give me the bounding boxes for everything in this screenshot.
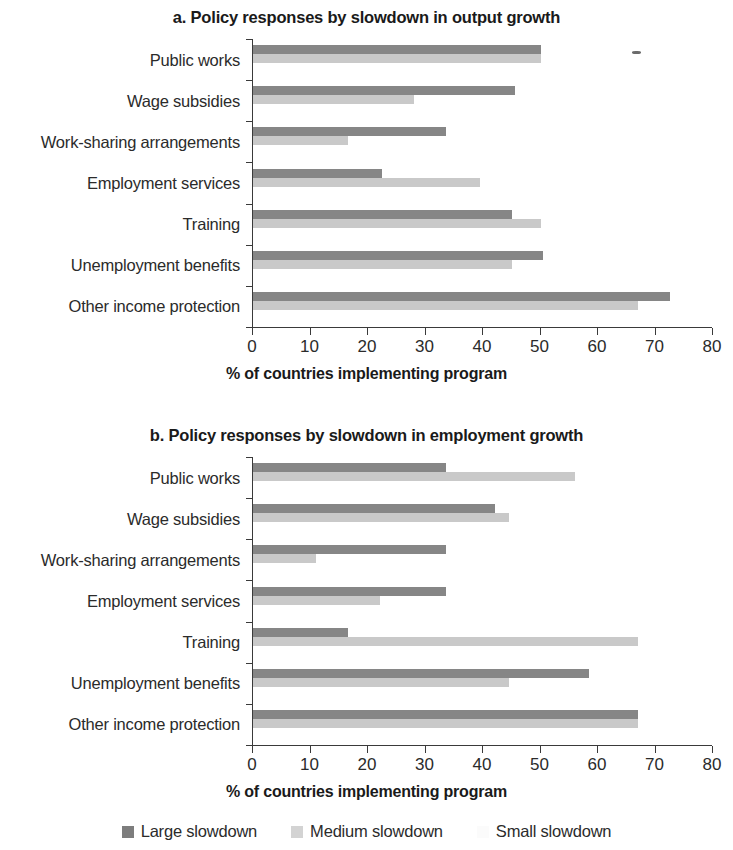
bar-a-1-large bbox=[253, 86, 515, 95]
chart-a-category-labels: Public worksWage subsidiesWork-sharing a… bbox=[0, 39, 246, 327]
category-label-a-1: Wage subsidies bbox=[127, 91, 240, 110]
bar-a-4-large bbox=[253, 210, 512, 219]
y-axis-tick bbox=[246, 498, 253, 499]
bar-a-5-large bbox=[253, 251, 543, 260]
x-axis-tick bbox=[540, 328, 541, 335]
y-axis-tick bbox=[246, 121, 253, 122]
y-axis-tick bbox=[246, 162, 253, 163]
x-axis-tick bbox=[655, 328, 656, 335]
x-axis-tick-label: 20 bbox=[358, 755, 377, 775]
y-axis-tick bbox=[246, 539, 253, 540]
bar-a-4-medium bbox=[253, 219, 541, 228]
y-axis-tick bbox=[246, 457, 253, 458]
x-axis-tick-label: 10 bbox=[300, 337, 319, 357]
x-axis-tick-label: 70 bbox=[645, 337, 664, 357]
bar-a-0-large bbox=[253, 45, 541, 54]
category-label-b-1: Wage subsidies bbox=[127, 509, 240, 528]
x-axis-tick bbox=[310, 328, 311, 335]
legend-item-small: Small slowdown bbox=[477, 822, 612, 841]
bar-a-1-medium bbox=[253, 95, 414, 104]
category-label-b-6: Other income protection bbox=[69, 715, 241, 734]
chart-b-category-labels: Public worksWage subsidiesWork-sharing a… bbox=[0, 457, 246, 745]
bar-a-2-medium bbox=[253, 136, 348, 145]
figure-page: a. Policy responses by slowdown in outpu… bbox=[0, 0, 733, 850]
chart-b-title: b. Policy responses by slowdown in emplo… bbox=[0, 420, 733, 445]
bar-b-1-medium bbox=[253, 513, 509, 522]
y-axis-tick bbox=[246, 39, 253, 40]
x-axis-tick bbox=[482, 328, 483, 335]
bar-a-6-medium bbox=[253, 301, 638, 310]
bar-b-4-large bbox=[253, 628, 348, 637]
y-axis-tick bbox=[246, 204, 253, 205]
bar-b-4-medium bbox=[253, 637, 638, 646]
category-label-a-6: Other income protection bbox=[69, 297, 241, 316]
x-axis-tick-label: 60 bbox=[588, 755, 607, 775]
legend-label: Medium slowdown bbox=[310, 822, 443, 841]
legend-item-large: Large slowdown bbox=[122, 822, 257, 841]
chart-b-x-axis-title: % of countries implementing program bbox=[0, 783, 733, 801]
chart-panel-b: b. Policy responses by slowdown in emplo… bbox=[0, 420, 733, 790]
category-label-b-4: Training bbox=[183, 633, 240, 652]
x-axis-tick bbox=[597, 328, 598, 335]
chart-a-x-axis-title: % of countries implementing program bbox=[0, 365, 733, 383]
bar-a-3-large bbox=[253, 169, 382, 178]
x-axis-tick-label: 10 bbox=[300, 755, 319, 775]
y-axis-tick bbox=[246, 286, 253, 287]
category-label-b-5: Unemployment benefits bbox=[71, 674, 240, 693]
category-label-b-3: Employment services bbox=[87, 592, 240, 611]
x-axis-tick-label: 80 bbox=[703, 755, 722, 775]
bar-b-0-large bbox=[253, 463, 446, 472]
x-axis-tick bbox=[252, 328, 253, 335]
bar-b-2-medium bbox=[253, 554, 316, 563]
bar-a-2-large bbox=[253, 127, 446, 136]
x-axis-tick bbox=[655, 746, 656, 753]
x-axis-tick bbox=[712, 746, 713, 753]
chart-panel-a: a. Policy responses by slowdown in outpu… bbox=[0, 0, 733, 400]
x-axis-tick-label: 40 bbox=[473, 755, 492, 775]
bar-b-6-medium bbox=[253, 719, 638, 728]
x-axis-tick-label: 80 bbox=[703, 337, 722, 357]
x-axis-tick bbox=[252, 746, 253, 753]
y-axis-tick bbox=[246, 580, 253, 581]
x-axis-tick-label: 40 bbox=[473, 337, 492, 357]
x-axis-tick-label: 50 bbox=[530, 337, 549, 357]
bar-a-0-medium bbox=[253, 54, 541, 63]
bar-b-2-large bbox=[253, 545, 446, 554]
x-axis-tick bbox=[425, 746, 426, 753]
bar-b-3-large bbox=[253, 587, 446, 596]
x-axis-tick bbox=[712, 328, 713, 335]
category-label-a-3: Employment services bbox=[87, 174, 240, 193]
x-axis-tick bbox=[597, 746, 598, 753]
chart-b-plot-area bbox=[252, 457, 713, 745]
bar-a-6-large bbox=[253, 292, 670, 301]
category-label-a-4: Training bbox=[183, 215, 240, 234]
x-axis-tick-label: 50 bbox=[530, 755, 549, 775]
x-axis-tick-label: 0 bbox=[247, 755, 256, 775]
legend-swatch-icon-small bbox=[477, 826, 489, 838]
chart-legend: Large slowdownMedium slowdownSmall slowd… bbox=[0, 822, 733, 841]
bar-b-3-medium bbox=[253, 596, 380, 605]
legend-label: Small slowdown bbox=[496, 822, 612, 841]
chart-b-x-axis: 01020304050607080 bbox=[252, 745, 712, 746]
y-axis-tick bbox=[246, 663, 253, 664]
bar-b-5-medium bbox=[253, 678, 509, 687]
bar-a-5-medium bbox=[253, 260, 512, 269]
y-axis-tick bbox=[246, 80, 253, 81]
legend-label: Large slowdown bbox=[141, 822, 257, 841]
y-axis-tick bbox=[246, 704, 253, 705]
chart-a-x-axis: 01020304050607080 bbox=[252, 327, 712, 328]
x-axis-tick bbox=[367, 746, 368, 753]
category-label-b-2: Work-sharing arrangements bbox=[41, 550, 240, 569]
chart-a-title: a. Policy responses by slowdown in outpu… bbox=[0, 0, 733, 27]
category-label-a-2: Work-sharing arrangements bbox=[41, 132, 240, 151]
legend-swatch-icon-large bbox=[122, 826, 134, 838]
x-axis-tick-label: 70 bbox=[645, 755, 664, 775]
x-axis-tick bbox=[310, 746, 311, 753]
x-axis-tick bbox=[425, 328, 426, 335]
x-axis-tick bbox=[482, 746, 483, 753]
x-axis-tick-label: 30 bbox=[415, 337, 434, 357]
scan-artifact-speck bbox=[632, 51, 641, 54]
x-axis-tick bbox=[367, 328, 368, 335]
chart-a-plot: Public worksWage subsidiesWork-sharing a… bbox=[0, 39, 733, 327]
bar-b-1-large bbox=[253, 504, 495, 513]
